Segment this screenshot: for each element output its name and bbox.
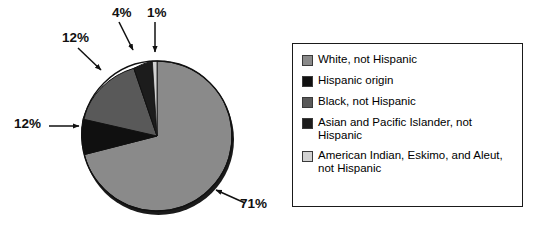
legend-item-label: Black, not Hispanic [318, 95, 416, 108]
pie-label-4pct: 4% [112, 6, 132, 20]
pie-label-1pct: 1% [147, 6, 167, 20]
legend-item-label: Hispanic origin [318, 74, 393, 87]
leader-arrow-12pct-upper [78, 48, 101, 70]
legend-swatch-icon [302, 76, 313, 87]
legend-swatch-icon [302, 97, 313, 108]
legend-swatch-icon [302, 151, 313, 162]
pie-chart-figure: 4% 1% 12% 12% 71% White, not Hispanic Hi… [0, 0, 555, 228]
legend-item-asian-pacific-islander[interactable]: Asian and Pacific Islander, not Hispanic [302, 116, 514, 141]
legend-item-label: American Indian, Eskimo, and Aleut, not … [318, 149, 503, 174]
legend-swatch-icon [302, 118, 313, 129]
chart-legend: White, not Hispanic Hispanic origin Blac… [292, 43, 523, 207]
pie-label-71pct: 71% [240, 197, 267, 211]
leader-arrow-4pct [119, 22, 133, 50]
legend-swatch-icon [302, 55, 313, 66]
pie-chart-graphic [0, 0, 290, 228]
legend-item-hispanic-origin[interactable]: Hispanic origin [302, 74, 514, 87]
legend-item-black-not-hispanic[interactable]: Black, not Hispanic [302, 95, 514, 108]
legend-item-label: White, not Hispanic [318, 53, 417, 66]
legend-item-label: Asian and Pacific Islander, not Hispanic [318, 116, 472, 141]
legend-item-white-not-hispanic[interactable]: White, not Hispanic [302, 53, 514, 66]
legend-item-american-indian-eskimo-aleut[interactable]: American Indian, Eskimo, and Aleut, not … [302, 149, 514, 174]
pie-label-12pct-upper: 12% [62, 31, 89, 45]
pie-label-12pct-left: 12% [14, 117, 41, 131]
